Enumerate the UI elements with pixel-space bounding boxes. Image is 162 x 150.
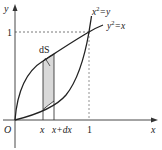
- label-x-squared: x2=y: [91, 5, 111, 17]
- ds-label: dS: [39, 44, 50, 55]
- origin-label: O: [4, 124, 11, 135]
- label-y-squared: y2=x: [106, 19, 126, 31]
- x-tick-x: x: [39, 124, 45, 135]
- x-axis-arrow-icon: [151, 118, 158, 123]
- area-diagram: y x O 1 x x+dx 1 dS x2=y y2=x: [0, 0, 162, 150]
- curve-sqrt-x: [15, 25, 103, 120]
- y-tick-1: 1: [7, 27, 12, 38]
- ds-strip: [43, 54, 54, 110]
- y-axis-arrow-icon: [13, 4, 18, 11]
- y-axis-label: y: [3, 3, 9, 14]
- x-axis-label: x: [150, 124, 156, 135]
- x-tick-1: 1: [87, 124, 92, 135]
- x-tick-x-plus-dx: x+dx: [51, 125, 72, 135]
